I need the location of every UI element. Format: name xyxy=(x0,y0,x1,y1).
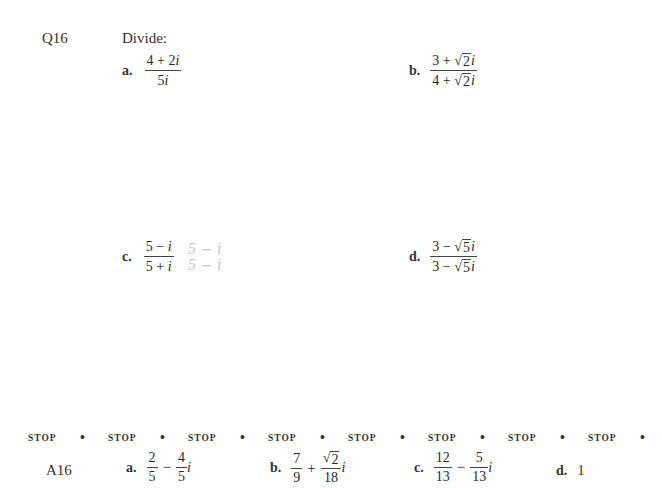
fraction: 5 − i 5 + i xyxy=(144,238,174,275)
denominator: 3 − √5i xyxy=(430,258,476,275)
fraction: √218 xyxy=(321,450,342,486)
part-label: d. xyxy=(409,249,420,265)
bullet-separator: • xyxy=(480,430,508,446)
bullet-separator: • xyxy=(320,430,348,446)
fraction: 3 − √5i 3 − √5i xyxy=(430,238,476,275)
part-label: d. xyxy=(556,463,567,479)
stop-bar: STOP• STOP• STOP• STOP• STOP• STOP• STOP… xyxy=(28,430,662,446)
question-number: Q16 xyxy=(42,30,68,47)
fraction: 1213 xyxy=(434,450,452,485)
fraction-bar xyxy=(145,70,182,71)
numerator: 4 + 2i xyxy=(145,52,182,69)
bullet-separator: • xyxy=(160,430,188,446)
part-label: b. xyxy=(270,460,281,476)
bullet-separator: • xyxy=(80,430,108,446)
part-label: b. xyxy=(409,63,420,79)
denominator: 5i xyxy=(155,72,170,89)
numerator: 3 + √2i xyxy=(430,52,476,69)
fraction: 4 + 2i 5i xyxy=(145,52,182,89)
answer-number: A16 xyxy=(46,462,72,479)
part-label: a. xyxy=(126,460,137,476)
fraction: 3 + √2i 4 + √2i xyxy=(430,52,476,89)
question-part-c: c. 5 − i 5 + i 5 − i 5 − i xyxy=(122,238,222,275)
fraction: 45 xyxy=(176,450,187,485)
fraction-bar xyxy=(430,256,476,257)
bullet-separator: • xyxy=(400,430,428,446)
sqrt-symbol: √2 xyxy=(454,52,471,69)
fraction: 79 xyxy=(291,451,302,486)
numerator: 5 − i xyxy=(144,238,174,255)
question-part-b: b. 3 + √2i 4 + √2i xyxy=(409,52,477,89)
instruction-text: Divide: xyxy=(122,30,167,47)
answer-part-b: b. 79 + √218 i xyxy=(270,450,345,486)
numerator: 3 − √5i xyxy=(430,238,476,255)
question-part-d: d. 3 − √5i 3 − √5i xyxy=(409,238,477,275)
bullet-separator: • xyxy=(240,430,268,446)
part-label: c. xyxy=(122,249,132,265)
fraction: 25 xyxy=(147,450,158,485)
handwritten-note: 5 − i 5 − i xyxy=(188,241,222,273)
fraction-bar xyxy=(144,256,174,257)
part-label: a. xyxy=(122,63,133,79)
fraction: 513 xyxy=(470,450,488,485)
sqrt-symbol: √5 xyxy=(454,258,471,275)
fraction-bar xyxy=(430,70,476,71)
bullet-separator: • xyxy=(640,430,650,446)
answer-part-a: a. 25 − 45 i xyxy=(126,450,191,485)
question-part-a: a. 4 + 2i 5i xyxy=(122,52,181,89)
denominator: 5 + i xyxy=(144,258,174,275)
answer-part-d: d. 1 xyxy=(556,462,585,479)
answer-part-c: c. 1213 − 513 i xyxy=(414,450,492,485)
sqrt-symbol: √5 xyxy=(454,238,471,255)
part-label: c. xyxy=(414,460,424,476)
sqrt-symbol: √2 xyxy=(454,72,471,89)
sqrt-symbol: √2 xyxy=(323,450,340,467)
bullet-separator: • xyxy=(560,430,588,446)
denominator: 4 + √2i xyxy=(430,72,476,89)
